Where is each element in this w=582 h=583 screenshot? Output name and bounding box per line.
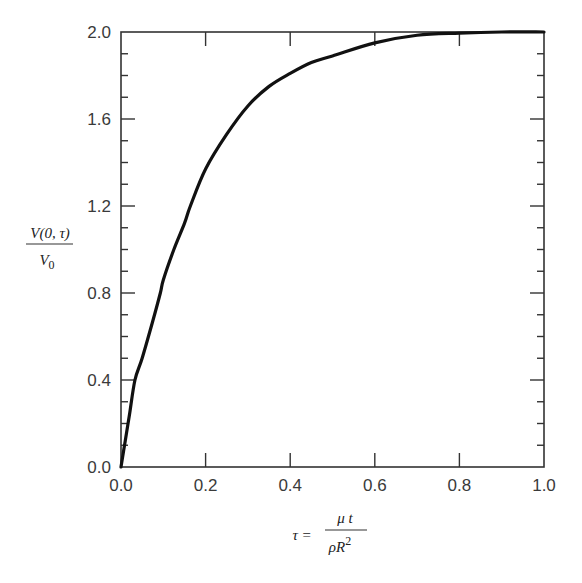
x-tick-label: 0.6 [363, 476, 387, 495]
x-axis-label: τ = μ t ρR2 [292, 510, 367, 555]
x-tick-label: 0.8 [448, 476, 472, 495]
x-label-lhs: τ = [292, 527, 311, 543]
x-tick-label: 0.0 [109, 476, 133, 495]
x-tick-label: 1.0 [532, 476, 556, 495]
y-tick-label: 0.4 [87, 371, 111, 390]
y-label-numerator: V(0, τ) [30, 225, 70, 242]
y-tick-label: 1.6 [87, 110, 111, 129]
y-tick-label: 0.0 [87, 458, 111, 477]
y-label-denominator: V0 [39, 252, 54, 272]
data-curve [121, 32, 544, 467]
chart: 0.00.20.40.60.81.00.00.40.81.21.62.0 V(0… [0, 0, 582, 583]
y-tick-label: 0.8 [87, 284, 111, 303]
plot-frame [121, 32, 544, 467]
x-tick-label: 0.2 [194, 476, 218, 495]
x-tick-label: 0.4 [278, 476, 302, 495]
y-tick-label: 1.2 [87, 197, 111, 216]
tick-labels: 0.00.20.40.60.81.00.00.40.81.21.62.0 [87, 23, 555, 495]
plot-border [121, 32, 544, 467]
y-tick-label: 2.0 [87, 23, 111, 42]
x-label-denominator: ρR2 [328, 534, 351, 555]
y-axis-label: V(0, τ) V0 [26, 225, 73, 272]
x-label-numerator: μ t [336, 510, 353, 526]
axis-ticks [121, 32, 544, 467]
